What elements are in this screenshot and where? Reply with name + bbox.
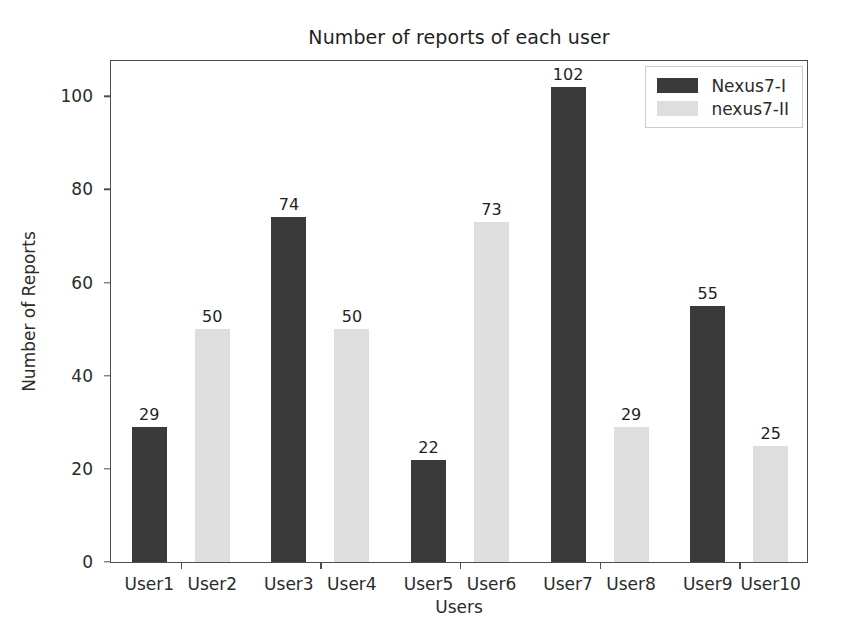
y-tick-mark bbox=[104, 96, 111, 97]
bar: 22 bbox=[411, 460, 446, 562]
bar: 74 bbox=[271, 217, 306, 562]
chart-legend: Nexus7-Inexus7-II bbox=[645, 66, 803, 128]
bar-value-label: 74 bbox=[279, 195, 299, 214]
legend-swatch bbox=[657, 101, 698, 116]
bar: 29 bbox=[614, 427, 649, 562]
y-tick-label: 80 bbox=[71, 179, 93, 199]
bar-value-label: 73 bbox=[481, 200, 501, 219]
x-tick-label: User10 bbox=[740, 574, 800, 594]
chart-figure: Number of reports of each user Number of… bbox=[0, 0, 849, 639]
y-tick-mark bbox=[104, 282, 111, 283]
chart-title: Number of reports of each user bbox=[110, 26, 808, 48]
x-tick-label: User6 bbox=[467, 574, 517, 594]
bar: 73 bbox=[474, 222, 509, 562]
legend-entry: Nexus7-I bbox=[657, 74, 789, 97]
bar: 102 bbox=[551, 87, 586, 562]
x-tick-label: User1 bbox=[125, 574, 175, 594]
x-tick-label: User7 bbox=[543, 574, 593, 594]
x-axis-label: Users bbox=[110, 597, 808, 617]
legend-label: nexus7-II bbox=[711, 99, 789, 119]
y-tick-mark bbox=[104, 561, 111, 562]
y-tick-label: 60 bbox=[71, 273, 93, 293]
legend-swatch bbox=[657, 78, 698, 93]
x-tick-label: User2 bbox=[188, 574, 238, 594]
bar-value-label: 25 bbox=[761, 424, 781, 443]
y-axis-label: Number of Reports bbox=[18, 60, 40, 563]
bar: 50 bbox=[195, 329, 230, 562]
x-tick-mark bbox=[181, 562, 182, 569]
bar-value-label: 29 bbox=[139, 405, 159, 424]
bar-value-label: 55 bbox=[698, 284, 718, 303]
x-tick-label: User4 bbox=[327, 574, 377, 594]
x-tick-label: User8 bbox=[606, 574, 656, 594]
y-tick-mark bbox=[104, 375, 111, 376]
x-tick-label: User3 bbox=[264, 574, 314, 594]
legend-label: Nexus7-I bbox=[711, 76, 786, 96]
x-tick-label: User9 bbox=[683, 574, 733, 594]
bar-value-label: 50 bbox=[342, 307, 362, 326]
y-tick-label: 0 bbox=[82, 552, 93, 572]
legend-entry: nexus7-II bbox=[657, 97, 789, 120]
y-tick-label: 100 bbox=[61, 86, 93, 106]
y-tick-mark bbox=[104, 189, 111, 190]
y-tick-label: 40 bbox=[71, 366, 93, 386]
bar: 29 bbox=[132, 427, 167, 562]
x-tick-mark bbox=[739, 562, 740, 569]
bar-value-label: 102 bbox=[553, 65, 584, 84]
y-tick-label: 20 bbox=[71, 459, 93, 479]
plot-area: 020406080100 User1User2User3User4User5Us… bbox=[111, 61, 807, 562]
x-tick-mark bbox=[320, 562, 321, 569]
bar-value-label: 22 bbox=[418, 438, 438, 457]
x-tick-mark bbox=[460, 562, 461, 569]
x-tick-mark bbox=[600, 562, 601, 569]
bar-value-label: 50 bbox=[202, 307, 222, 326]
plot-axes: 020406080100 User1User2User3User4User5Us… bbox=[110, 60, 808, 563]
bar: 55 bbox=[690, 306, 725, 562]
bar: 25 bbox=[753, 446, 788, 562]
x-tick-label: User5 bbox=[404, 574, 454, 594]
bar: 50 bbox=[334, 329, 369, 562]
y-tick-mark bbox=[104, 468, 111, 469]
bar-value-label: 29 bbox=[621, 405, 641, 424]
